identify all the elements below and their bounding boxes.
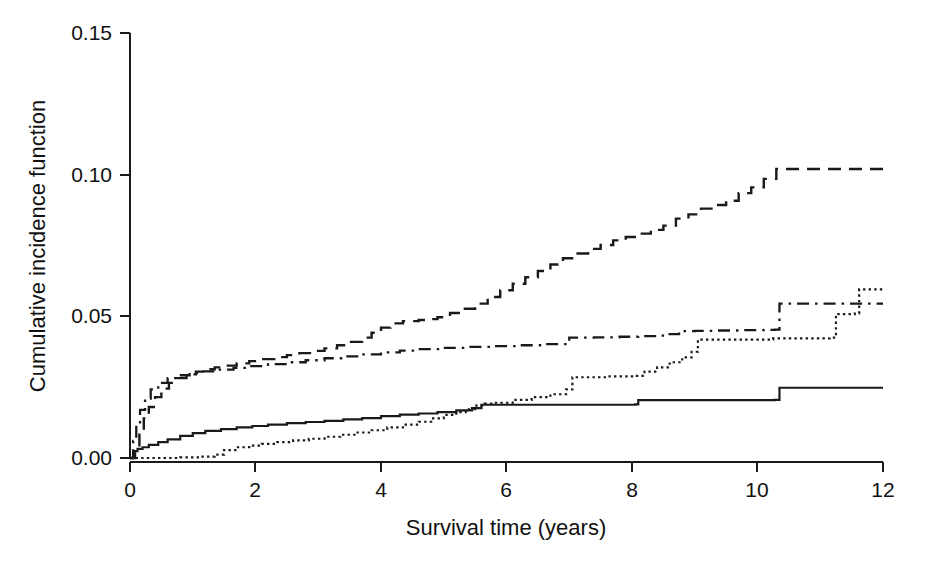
y-tick-label-005: 0.05 xyxy=(71,304,112,327)
x-tick-label-12: 12 xyxy=(871,478,894,501)
series-dotted xyxy=(130,289,883,458)
x-tick-label-4: 4 xyxy=(375,478,387,501)
series-layer xyxy=(130,169,883,458)
y-tick-label-010: 0.10 xyxy=(71,163,112,186)
cumulative-incidence-chart: 0.15 0.10 0.05 0.00 0 2 4 6 8 10 12 Surv… xyxy=(0,0,932,565)
figure-container: 0.15 0.10 0.05 0.00 0 2 4 6 8 10 12 Surv… xyxy=(0,0,932,565)
series-dashed xyxy=(130,169,883,458)
x-tick-label-10: 10 xyxy=(745,478,768,501)
series-dashdot xyxy=(130,304,883,458)
x-tick-label-0: 0 xyxy=(124,478,136,501)
y-tick-label-015: 0.15 xyxy=(71,21,112,44)
y-axis-title: Cumulative incidence function xyxy=(25,100,50,392)
x-axis-title: Survival time (years) xyxy=(406,515,606,540)
x-tick-label-6: 6 xyxy=(500,478,512,501)
x-tick-label-2: 2 xyxy=(249,478,261,501)
y-tick-group xyxy=(120,33,130,458)
y-tick-label-000: 0.00 xyxy=(71,446,112,469)
x-tick-label-8: 8 xyxy=(626,478,638,501)
x-tick-group xyxy=(130,462,883,472)
